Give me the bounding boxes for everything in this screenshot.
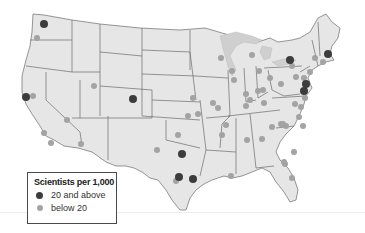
- dark-dot-icon: [36, 192, 43, 199]
- light-dot-icon: [37, 205, 43, 211]
- legend-item-low: below 20: [34, 203, 110, 213]
- legend-label-high: 20 and above: [51, 190, 106, 200]
- map-legend: Scientists per 1,000 20 and above below …: [27, 172, 117, 224]
- legend-title: Scientists per 1,000: [34, 177, 110, 187]
- legend-label-low: below 20: [51, 203, 87, 213]
- legend-item-high: 20 and above: [34, 190, 110, 200]
